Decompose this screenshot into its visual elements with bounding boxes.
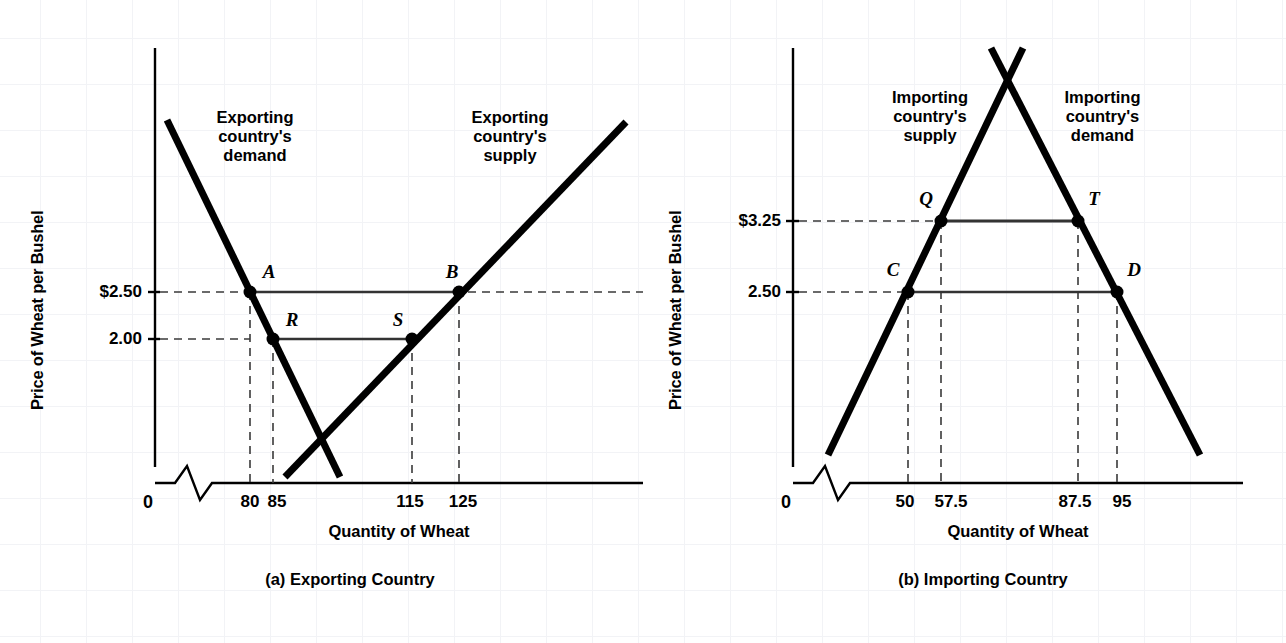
importing-demand-label-line-1: Importing xyxy=(1035,88,1170,107)
y-axis-title: Price of Wheat per Bushel xyxy=(28,211,47,410)
y-tick-label-2-00: 2.00 xyxy=(62,329,142,349)
x-axis-with-break xyxy=(793,466,1243,500)
x-tick-label-80: 80 xyxy=(241,492,260,512)
y-tick-label-3-25: $3.25 xyxy=(693,211,781,231)
x-tick-label-87-5: 87.5 xyxy=(1058,492,1091,512)
point-label-C: C xyxy=(887,259,900,281)
point-label-R: R xyxy=(286,309,299,331)
point-S-marker xyxy=(406,333,419,346)
point-label-B: B xyxy=(446,261,459,283)
importing-supply-label-line-3: supply xyxy=(865,126,995,145)
x-tick-label-125: 125 xyxy=(449,492,477,512)
point-T-marker xyxy=(1072,215,1085,228)
point-label-Q: Q xyxy=(919,188,933,210)
exporting-supply-label-line-3: supply xyxy=(445,146,575,165)
exporting-demand-label-line-2: country's xyxy=(190,127,320,146)
exporting-supply-label-line-2: country's xyxy=(445,127,575,146)
point-D-marker xyxy=(1111,286,1124,299)
importing-demand-label-line-2: country's xyxy=(1035,107,1170,126)
importing-demand-label: Importing country's demand xyxy=(1035,88,1170,145)
panel-caption-importing: (b) Importing Country xyxy=(743,570,1223,589)
importing-supply-label-line-2: country's xyxy=(865,107,995,126)
panel-caption-exporting: (a) Exporting Country xyxy=(100,570,600,589)
x-tick-label-85: 85 xyxy=(268,492,287,512)
exporting-demand-label: Exporting country's demand xyxy=(190,108,320,165)
x-tick-label-50: 50 xyxy=(896,492,915,512)
y-tick-label-2-50: 2.50 xyxy=(693,282,781,302)
x-tick-label-95: 95 xyxy=(1113,492,1132,512)
importing-demand-label-line-3: demand xyxy=(1035,126,1170,145)
point-B-marker xyxy=(453,286,466,299)
exporting-country-plot xyxy=(0,0,643,643)
importing-supply-label-line-1: Importing xyxy=(865,88,995,107)
y-axis-title: Price of Wheat per Bushel xyxy=(666,211,685,410)
exporting-demand-label-line-1: Exporting xyxy=(190,108,320,127)
exporting-supply-label-line-1: Exporting xyxy=(445,108,575,127)
x-axis-title: Quantity of Wheat xyxy=(155,522,643,541)
exporting-demand-label-line-3: demand xyxy=(190,146,320,165)
point-C-marker xyxy=(902,286,915,299)
importing-supply-label: Importing country's supply xyxy=(865,88,995,145)
exporting-supply-curve xyxy=(285,122,626,477)
x-tick-label-57-5: 57.5 xyxy=(934,492,967,512)
point-R-marker xyxy=(267,333,280,346)
point-Q-marker xyxy=(935,215,948,228)
x-tick-label-115: 115 xyxy=(396,492,423,512)
panel-exporting-country: Price of Wheat per Bushel $2.50 2.00 0 8… xyxy=(0,0,643,643)
point-label-S: S xyxy=(393,309,404,331)
exporting-supply-label: Exporting country's supply xyxy=(445,108,575,165)
point-label-D: D xyxy=(1127,259,1141,281)
exporting-demand-curve xyxy=(167,120,340,477)
origin-label: 0 xyxy=(143,492,153,513)
point-A-marker xyxy=(244,286,257,299)
panel-importing-country: Price of Wheat per Bushel $3.25 2.50 0 5… xyxy=(643,0,1286,643)
origin-label: 0 xyxy=(781,492,791,513)
point-label-T: T xyxy=(1088,188,1100,210)
point-label-A: A xyxy=(263,261,276,283)
x-axis-title: Quantity of Wheat xyxy=(793,522,1243,541)
y-tick-label-2-50: $2.50 xyxy=(62,282,142,302)
